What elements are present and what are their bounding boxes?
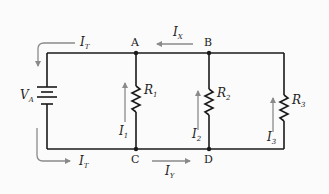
current-label-ix: IX [173, 26, 183, 41]
current-label-it-top: IT [80, 36, 89, 51]
node-label-d: D [204, 154, 213, 165]
resistor-label-r2: R2 [217, 87, 231, 102]
resistor-label-r1: R1 [144, 84, 158, 99]
current-label-it-bottom: IT [79, 155, 88, 170]
current-label-iy: IY [165, 165, 174, 180]
current-label-i2: I2 [192, 128, 201, 143]
node-label-b: B [204, 37, 212, 48]
current-label-i3: I3 [267, 131, 276, 146]
circuit-diagram: A B C D VA R1 R2 R3 IT IT IX IY I1 I2 I3 [0, 0, 329, 194]
current-arrows [37, 43, 273, 161]
current-label-i1: I1 [119, 125, 128, 140]
wires [47, 53, 288, 149]
resistor-label-r3: R3 [292, 94, 306, 109]
battery-symbol [37, 87, 57, 104]
node-label-a: A [131, 37, 139, 48]
node-label-c: C [131, 154, 139, 165]
source-label-va: VA [20, 89, 34, 104]
